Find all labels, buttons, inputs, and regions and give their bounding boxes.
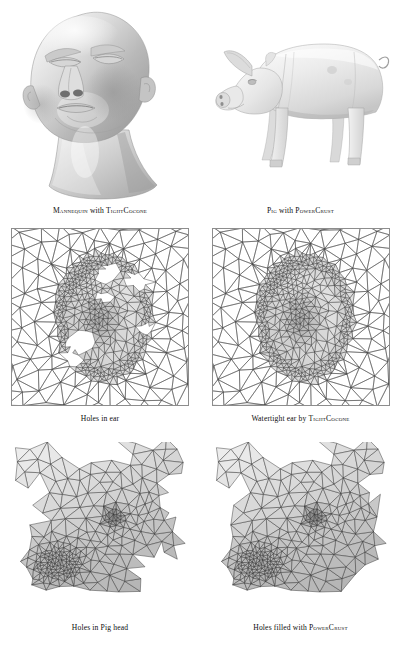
caption-pighead-filled-prefix: Holes filled with [253,623,309,632]
pighead-filled-panel [210,442,392,615]
results-figure: Mannequin with TightCocone [0,0,401,655]
ear-mesh-with-holes [12,229,188,405]
figure-cell-pig: Pig with PowerCrust [200,0,401,216]
ear-mesh-watertight [213,229,389,405]
pighead-mesh-filled [210,442,392,615]
ear-holes-panel [11,228,189,406]
caption-pighead-filled-method: PowerCrust [309,623,348,632]
caption-mannequin-model: Mannequin [53,206,88,215]
mannequin-head-render [5,0,195,200]
figure-row-pighead-meshes: Holes in Pig head Holes filled with Powe… [0,442,401,655]
pighead-holes-panel [9,442,191,615]
caption-ear-holes: Holes in ear [0,414,200,424]
ear-holes-caption-wrap: Holes in ear [0,406,200,424]
caption-pig-method: PowerCrust [295,206,334,215]
figure-row-ear-meshes: Holes in ear Watertight ear by TightCoco… [0,228,401,442]
pighead-filled-caption-wrap: Holes filled with PowerCrust [200,615,401,633]
mannequin-render-panel [5,0,195,200]
caption-ear-watertight: Watertight ear by TightCocone [200,414,401,424]
pig-render-panel [206,0,396,200]
caption-pighead-holes: Holes in Pig head [0,623,200,633]
pig-caption-wrap: Pig with PowerCrust [200,200,401,216]
caption-ear-watertight-method: TightCocone [309,414,350,423]
caption-pighead-filled: Holes filled with PowerCrust [200,623,401,633]
figure-cell-pighead-filled: Holes filled with PowerCrust [200,442,401,633]
caption-mannequin: Mannequin with TightCocone [0,206,200,216]
mannequin-caption-wrap: Mannequin with TightCocone [0,200,200,216]
figure-cell-mannequin: Mannequin with TightCocone [0,0,200,216]
caption-mannequin-method: TightCocone [106,206,147,215]
pighead-holes-caption-wrap: Holes in Pig head [0,615,200,633]
figure-cell-ear-holes: Holes in ear [0,228,200,424]
caption-pig-model: Pig [267,206,277,215]
caption-pig: Pig with PowerCrust [200,206,401,216]
ear-watertight-panel [212,228,390,406]
pighead-mesh-with-holes [9,442,191,615]
figure-cell-pighead-holes: Holes in Pig head [0,442,200,633]
figure-row-renders: Mannequin with TightCocone [0,0,401,228]
caption-mannequin-connector: with [88,206,106,215]
figure-cell-ear-watertight: Watertight ear by TightCocone [200,228,401,424]
caption-ear-watertight-prefix: Watertight ear by [251,414,308,423]
ear-watertight-caption-wrap: Watertight ear by TightCocone [200,406,401,424]
caption-pig-connector: with [277,206,295,215]
pig-render [206,0,396,200]
